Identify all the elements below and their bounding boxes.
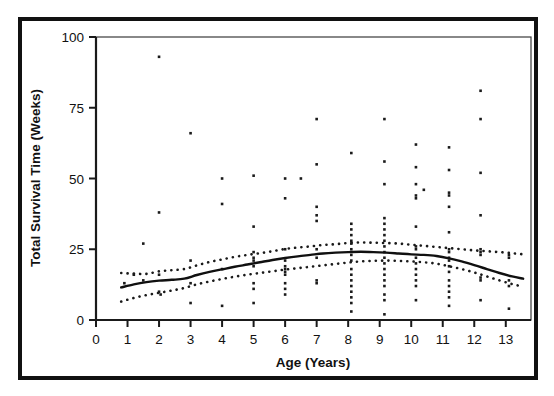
data-point <box>350 302 353 305</box>
data-point <box>383 256 386 259</box>
data-point <box>415 166 418 169</box>
data-point <box>383 293 386 296</box>
plot-frame <box>96 37 531 320</box>
x-tick-label: 1 <box>124 332 132 347</box>
data-point <box>350 296 353 299</box>
data-point <box>315 282 318 285</box>
data-point <box>479 118 482 121</box>
x-tick-label: 11 <box>436 332 450 347</box>
data-point <box>508 256 511 259</box>
data-point <box>448 191 451 194</box>
x-tick-label: 0 <box>92 332 100 347</box>
data-point <box>159 293 162 296</box>
data-point <box>383 234 386 237</box>
data-point <box>315 256 318 259</box>
data-point <box>252 288 255 291</box>
y-tick-label: 75 <box>69 101 84 116</box>
data-point <box>383 285 386 288</box>
data-point <box>350 152 353 155</box>
data-point <box>142 242 145 245</box>
data-point <box>350 228 353 231</box>
data-point <box>350 254 353 257</box>
data-point <box>479 248 482 251</box>
data-point <box>158 211 161 214</box>
data-point <box>423 189 426 192</box>
data-point <box>221 203 224 206</box>
data-point <box>284 259 287 262</box>
data-point <box>415 279 418 282</box>
data-point <box>252 259 255 262</box>
x-tick-label: 4 <box>218 332 226 347</box>
data-point <box>383 217 386 220</box>
data-point <box>350 268 353 271</box>
data-point <box>315 220 318 223</box>
data-point <box>383 222 386 225</box>
x-tick-label: 5 <box>250 332 258 347</box>
data-point <box>383 245 386 248</box>
data-point <box>383 299 386 302</box>
data-point <box>479 214 482 217</box>
y-tick-label: 100 <box>61 30 84 45</box>
data-point <box>383 273 386 276</box>
data-point <box>448 206 451 209</box>
data-point <box>350 234 353 237</box>
x-tick-label: 7 <box>313 332 321 347</box>
x-axis-title: Age (Years) <box>276 355 350 370</box>
x-tick-label: 12 <box>467 332 482 347</box>
data-point <box>448 279 451 282</box>
data-point <box>284 248 287 251</box>
data-point <box>448 251 451 254</box>
data-point <box>448 194 451 197</box>
data-point <box>479 299 482 302</box>
data-point <box>383 279 386 282</box>
data-point <box>415 299 418 302</box>
data-point <box>383 183 386 186</box>
data-point <box>350 310 353 313</box>
data-point <box>415 256 418 259</box>
data-point <box>448 248 451 251</box>
data-point <box>158 56 161 59</box>
y-axis-title: Total Survival Time (Weeks) <box>28 89 43 267</box>
data-point <box>252 265 255 268</box>
data-point <box>479 251 482 254</box>
data-point <box>284 282 287 285</box>
y-axis-tick-labels: 0255075100 <box>61 30 84 328</box>
data-point <box>252 225 255 228</box>
data-point <box>350 273 353 276</box>
x-tick-label: 2 <box>155 332 163 347</box>
data-point <box>284 293 287 296</box>
data-point <box>252 302 255 305</box>
data-point <box>383 262 386 265</box>
x-tick-label: 13 <box>498 332 513 347</box>
data-point <box>284 271 287 274</box>
data-point <box>383 160 386 163</box>
data-point <box>189 282 192 285</box>
data-point <box>315 214 318 217</box>
data-point <box>383 268 386 271</box>
data-point <box>415 273 418 276</box>
data-point <box>415 194 418 197</box>
data-point <box>158 273 161 276</box>
data-point <box>315 118 318 121</box>
data-point <box>284 265 287 268</box>
data-point <box>252 282 255 285</box>
data-point <box>479 254 482 257</box>
data-point <box>383 228 386 231</box>
data-point <box>415 268 418 271</box>
data-point <box>415 143 418 146</box>
data-point <box>350 285 353 288</box>
data-point <box>189 132 192 135</box>
x-tick-label: 8 <box>344 332 352 347</box>
x-tick-label: 9 <box>376 332 384 347</box>
data-point <box>415 248 418 251</box>
data-point <box>415 262 418 265</box>
figure-container: 0255075100 012345678910111213 Total Surv… <box>0 0 554 396</box>
data-point <box>479 172 482 175</box>
data-point <box>448 290 451 293</box>
data-point <box>284 273 287 276</box>
data-point <box>479 89 482 92</box>
data-point <box>315 206 318 209</box>
data-point <box>189 259 192 262</box>
data-point <box>508 285 511 288</box>
data-point <box>448 285 451 288</box>
